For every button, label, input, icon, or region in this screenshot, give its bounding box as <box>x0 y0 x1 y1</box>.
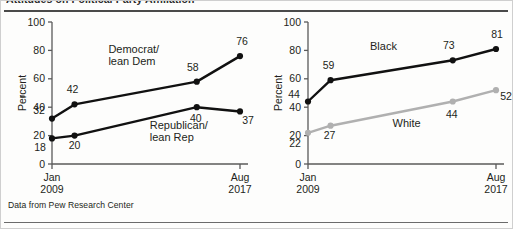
svg-text:2009: 2009 <box>296 183 320 195</box>
svg-text:20: 20 <box>69 139 81 151</box>
svg-text:52: 52 <box>500 90 512 102</box>
svg-text:59: 59 <box>323 59 335 71</box>
svg-text:100: 100 <box>283 16 301 28</box>
svg-text:Aug: Aug <box>487 171 506 183</box>
svg-text:Democrat/: Democrat/ <box>108 43 160 55</box>
svg-text:Percent: Percent <box>272 75 284 111</box>
svg-text:60: 60 <box>289 72 301 84</box>
chart-panel-left: 020406080100PercentJan2009Aug20173242587… <box>0 14 256 200</box>
svg-text:18: 18 <box>34 141 46 153</box>
svg-text:58: 58 <box>187 61 199 73</box>
svg-text:White: White <box>393 117 421 129</box>
svg-text:76: 76 <box>236 35 248 47</box>
chart-panel-right: 020406080100PercentJan2009Aug20174459738… <box>256 14 512 200</box>
line-chart-party: 020406080100PercentJan2009Aug20173242587… <box>0 14 256 200</box>
svg-text:37: 37 <box>242 114 254 126</box>
svg-text:Jan: Jan <box>300 171 317 183</box>
header-divider <box>4 10 508 12</box>
svg-text:0: 0 <box>39 158 45 170</box>
svg-text:2017: 2017 <box>484 183 508 195</box>
svg-text:20: 20 <box>33 129 45 141</box>
svg-text:40: 40 <box>289 101 301 113</box>
svg-text:80: 80 <box>33 44 45 56</box>
svg-text:80: 80 <box>289 44 301 56</box>
footer-divider <box>4 222 508 223</box>
svg-text:0: 0 <box>295 158 301 170</box>
svg-text:81: 81 <box>491 28 503 40</box>
svg-text:60: 60 <box>33 72 45 84</box>
page-title: Attitudes on Political Party Affiliation <box>6 0 406 5</box>
line-chart-race: 020406080100PercentJan2009Aug20174459738… <box>256 14 512 200</box>
svg-text:22: 22 <box>289 137 301 149</box>
svg-text:Percent: Percent <box>16 75 28 111</box>
svg-text:Black: Black <box>370 40 397 52</box>
svg-text:42: 42 <box>67 83 79 95</box>
source-note: Data from Pew Research Center <box>8 200 134 210</box>
svg-text:2009: 2009 <box>40 183 64 195</box>
svg-text:44: 44 <box>446 108 458 120</box>
svg-text:lean Rep: lean Rep <box>150 131 194 143</box>
svg-text:73: 73 <box>443 39 455 51</box>
svg-text:Republican/: Republican/ <box>150 119 209 131</box>
svg-text:44: 44 <box>288 88 300 100</box>
svg-text:Aug: Aug <box>231 171 250 183</box>
svg-text:100: 100 <box>27 16 45 28</box>
svg-text:lean Dem: lean Dem <box>108 55 155 67</box>
svg-text:27: 27 <box>324 129 336 141</box>
svg-text:Jan: Jan <box>44 171 61 183</box>
svg-text:2017: 2017 <box>228 183 252 195</box>
svg-text:32: 32 <box>33 104 45 116</box>
